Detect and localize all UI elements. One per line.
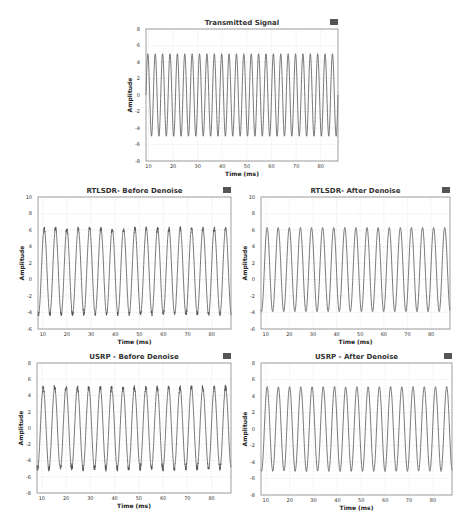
- menu-square-icon[interactable]: [223, 353, 231, 359]
- y-tick-label: -4: [27, 309, 32, 315]
- x-tick-label: 60: [268, 163, 274, 169]
- chart-title: Transmitted Signal: [205, 19, 279, 27]
- y-tick-label: 6: [28, 376, 31, 382]
- y-tick-label: 6: [29, 227, 32, 233]
- y-tick-label: 10: [26, 194, 32, 200]
- x-tick-label: 70: [184, 495, 190, 501]
- x-tick-label: 50: [358, 497, 364, 503]
- x-tick-label: 70: [184, 331, 190, 337]
- chart-usrp-after-denoise: 1020304050607080-8-6-4-202468USRP - Afte…: [261, 363, 452, 515]
- x-axis-label: Time (ms): [225, 170, 259, 177]
- y-tick-label: -8: [250, 492, 255, 498]
- x-tick-label: 10: [145, 163, 151, 169]
- y-tick-label: 2: [29, 260, 32, 266]
- x-tick-label: 80: [428, 331, 434, 337]
- chart-title: USRP - After Denoise: [315, 353, 398, 361]
- x-tick-label: 30: [195, 163, 201, 169]
- y-tick-label: 6: [252, 227, 255, 233]
- y-tick-label: 0: [137, 92, 140, 98]
- y-axis-label: Amplitude: [241, 246, 249, 281]
- y-tick-label: -2: [27, 293, 32, 299]
- x-tick-label: 60: [382, 497, 388, 503]
- x-tick-label: 50: [136, 331, 142, 337]
- y-tick-label: -2: [26, 441, 31, 447]
- menu-square-icon[interactable]: [444, 353, 452, 359]
- x-tick-label: 50: [357, 331, 363, 337]
- x-tick-label: 30: [310, 497, 316, 503]
- y-axis-label: Amplitude: [18, 246, 26, 281]
- x-tick-label: 40: [111, 495, 117, 501]
- y-tick-label: -4: [135, 125, 140, 131]
- chart-svg: 1020304050607080-8-6-4-202468USRP - Afte…: [261, 363, 452, 515]
- menu-square-icon[interactable]: [442, 187, 450, 193]
- x-tick-label: 60: [381, 331, 387, 337]
- chart-rtlsdr-before-denoise: 1020304050607080-6-4-20246810RTLSDR- Bef…: [38, 197, 231, 349]
- x-tick-label: 80: [208, 495, 214, 501]
- x-tick-label: 60: [160, 495, 166, 501]
- y-tick-label: -8: [26, 490, 31, 496]
- x-tick-label: 10: [263, 497, 269, 503]
- x-tick-label: 10: [39, 495, 45, 501]
- y-tick-label: -6: [26, 474, 31, 480]
- y-tick-label: 2: [252, 260, 255, 266]
- x-tick-label: 20: [286, 331, 292, 337]
- y-tick-label: -4: [250, 309, 255, 315]
- y-axis-label: Amplitude: [126, 78, 134, 113]
- x-axis-label: Time (ms): [117, 502, 151, 509]
- chart-svg: 1020304050607080-8-6-4-202468Transmitted…: [146, 29, 338, 181]
- x-tick-label: 30: [310, 331, 316, 337]
- y-tick-label: 4: [252, 243, 255, 249]
- y-tick-label: -2: [250, 293, 255, 299]
- chart-title: RTLSDR- Before Denoise: [86, 187, 182, 195]
- y-tick-label: 4: [28, 392, 31, 398]
- y-tick-label: 0: [252, 276, 255, 282]
- x-tick-label: 10: [40, 331, 46, 337]
- y-tick-label: -4: [26, 457, 31, 463]
- x-tick-label: 80: [209, 331, 215, 337]
- x-tick-label: 10: [263, 331, 269, 337]
- y-tick-label: -4: [250, 459, 255, 465]
- x-tick-label: 20: [64, 331, 70, 337]
- chart-svg: 1020304050607080-6-4-20246810RTLSDR- Aft…: [261, 197, 450, 349]
- y-tick-label: 6: [137, 42, 140, 48]
- x-tick-label: 70: [293, 163, 299, 169]
- x-tick-label: 60: [160, 331, 166, 337]
- x-tick-label: 40: [334, 497, 340, 503]
- y-tick-label: -2: [250, 442, 255, 448]
- x-axis-label: Time (ms): [340, 504, 374, 511]
- y-tick-label: 0: [252, 426, 255, 432]
- chart-svg: 1020304050607080-6-4-20246810RTLSDR- Bef…: [38, 197, 231, 349]
- x-tick-label: 50: [244, 163, 250, 169]
- y-tick-label: 0: [28, 425, 31, 431]
- menu-square-icon[interactable]: [330, 19, 338, 25]
- x-tick-label: 30: [87, 495, 93, 501]
- y-tick-label: 8: [252, 360, 255, 366]
- x-tick-label: 20: [170, 163, 176, 169]
- chart-usrp-before-denoise: 1020304050607080-8-6-4-202468USRP - Befo…: [37, 363, 231, 513]
- y-tick-label: 2: [137, 75, 140, 81]
- x-tick-label: 20: [63, 495, 69, 501]
- menu-square-icon[interactable]: [223, 187, 231, 193]
- y-axis-label: Amplitude: [241, 412, 249, 447]
- y-tick-label: -6: [250, 326, 255, 332]
- x-tick-label: 40: [333, 331, 339, 337]
- y-tick-label: 10: [249, 194, 255, 200]
- chart-rtlsdr-after-denoise: 1020304050607080-6-4-20246810RTLSDR- Aft…: [261, 197, 450, 349]
- y-axis-label: Amplitude: [17, 411, 25, 446]
- y-tick-label: 4: [137, 59, 140, 65]
- x-tick-label: 30: [88, 331, 94, 337]
- y-tick-label: -2: [135, 108, 140, 114]
- chart-title: USRP - Before Denoise: [89, 353, 179, 361]
- y-tick-label: -8: [135, 158, 140, 164]
- y-tick-label: 6: [252, 376, 255, 382]
- y-tick-label: 2: [28, 409, 31, 415]
- x-tick-label: 70: [406, 497, 412, 503]
- x-axis-label: Time (ms): [339, 338, 373, 345]
- x-tick-label: 50: [136, 495, 142, 501]
- y-tick-label: 8: [28, 360, 31, 366]
- y-tick-label: 8: [137, 26, 140, 32]
- y-tick-label: 2: [252, 409, 255, 415]
- x-tick-label: 40: [112, 331, 118, 337]
- chart-title: RTLSDR- After Denoise: [310, 187, 400, 195]
- y-tick-label: -6: [27, 326, 32, 332]
